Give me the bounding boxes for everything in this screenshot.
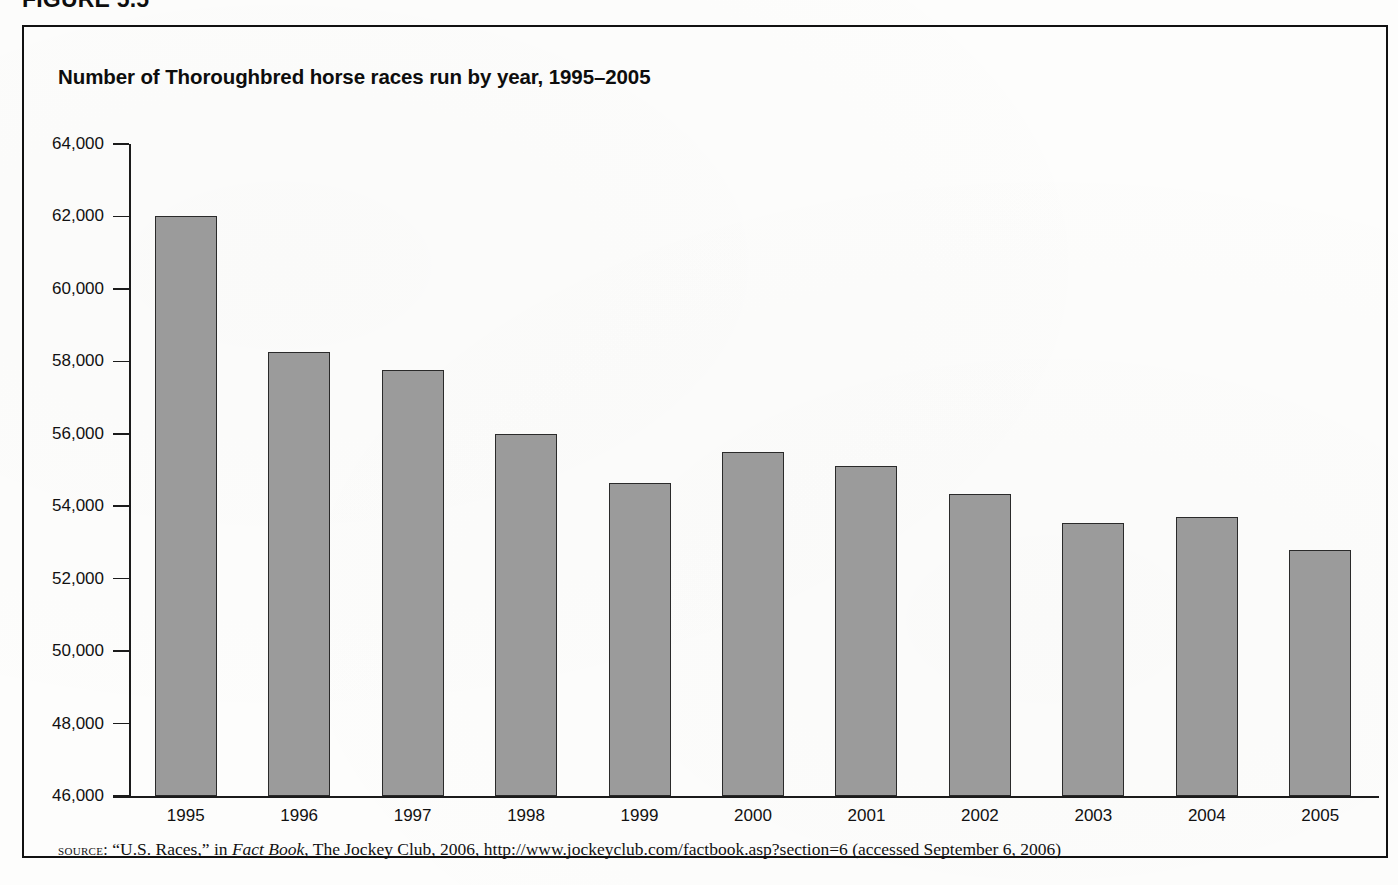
bar [155, 216, 217, 796]
y-axis-tick-label: 64,000 [52, 134, 104, 154]
bar-slot [469, 144, 582, 796]
bar [1289, 550, 1351, 796]
y-axis-tick-mark: 58,000 [113, 361, 129, 363]
bar-slot [242, 144, 355, 796]
y-axis-tick-label: 50,000 [52, 641, 104, 661]
y-axis-tick-label: 60,000 [52, 279, 104, 299]
y-axis-tick-mark: 60,000 [113, 288, 129, 290]
y-axis-tick-label: 54,000 [52, 496, 104, 516]
bar-slot [923, 144, 1036, 796]
x-axis-tick-label: 1995 [167, 806, 205, 826]
y-axis-tick-mark: 48,000 [113, 723, 129, 725]
y-axis-tick-mark: 56,000 [113, 433, 129, 435]
x-axis-tick-label: 1997 [394, 806, 432, 826]
source-note: source: “U.S. Races,” in Fact Book, The … [58, 839, 1061, 860]
source-text-part1: “U.S. Races,” in [108, 839, 232, 859]
y-axis-tick-label: 58,000 [52, 351, 104, 371]
bar [835, 466, 897, 796]
x-axis-tick-label: 2000 [734, 806, 772, 826]
y-axis-tick-mark: 50,000 [113, 650, 129, 652]
x-axis-tick-label: 1996 [280, 806, 318, 826]
y-axis-tick-mark: 64,000 [113, 143, 129, 145]
bar-slot [356, 144, 469, 796]
x-axis-tick-label: 2004 [1188, 806, 1226, 826]
bar-slot [810, 144, 923, 796]
figure-frame: Number of Thoroughbred horse races run b… [22, 25, 1388, 858]
bar-slot [1150, 144, 1263, 796]
source-label: source: [58, 841, 108, 858]
y-axis-tick-label: 48,000 [52, 714, 104, 734]
y-axis-tick-mark: 62,000 [113, 216, 129, 218]
x-axis-tick-label: 2002 [961, 806, 999, 826]
x-axis-tick-label: 2003 [1074, 806, 1112, 826]
x-axis-tick-label: 1999 [621, 806, 659, 826]
bar-slot [129, 144, 242, 796]
bar [949, 494, 1011, 796]
y-axis-tick-mark: 54,000 [113, 505, 129, 507]
y-axis-tick-label: 56,000 [52, 424, 104, 444]
bar-slot [1037, 144, 1150, 796]
y-axis-tick-label: 46,000 [52, 786, 104, 806]
y-axis-tick-mark: 52,000 [113, 578, 129, 580]
chart-title: Number of Thoroughbred horse races run b… [58, 65, 650, 89]
y-axis-tick-mark: 46,000 [113, 795, 129, 797]
figure-number-heading: FIGURE 5.5 [22, 0, 149, 12]
x-axis-tick-label: 2001 [848, 806, 886, 826]
bar [722, 452, 784, 796]
bar-slot [1264, 144, 1377, 796]
bar-slot [696, 144, 809, 796]
bar [495, 434, 557, 796]
bar [1062, 523, 1124, 796]
bar [382, 370, 444, 796]
bar [1176, 517, 1238, 796]
plot-area: 64,00062,00060,00058,00056,00054,00052,0… [129, 144, 1377, 796]
x-axis-line [113, 796, 1379, 798]
source-text-part2: , The Jockey Club, 2006, http://www.jock… [304, 839, 1061, 859]
x-axis-tick-label: 1998 [507, 806, 545, 826]
bar [268, 352, 330, 796]
bar [609, 483, 671, 796]
bar-slot [583, 144, 696, 796]
x-axis-tick-label: 2005 [1301, 806, 1339, 826]
y-axis-tick-label: 52,000 [52, 569, 104, 589]
y-axis-tick-label: 62,000 [52, 206, 104, 226]
source-publication-title: Fact Book [232, 839, 304, 859]
